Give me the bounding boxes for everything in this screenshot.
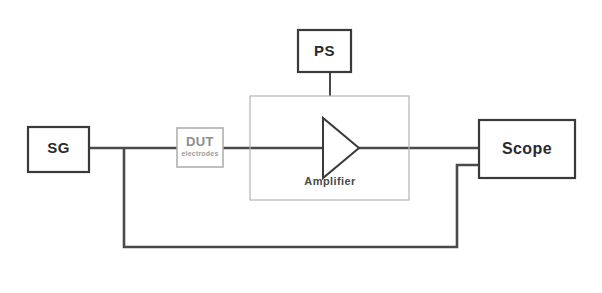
circuit-block-diagram: SG DUT electrodes PS Amplifier Scope (0, 0, 602, 293)
wire-group (88, 72, 479, 247)
diagram-graphics-layer (0, 0, 602, 293)
oscilloscope-box (479, 120, 575, 178)
power-supply-box (298, 30, 351, 72)
amplifier-triangle-icon (323, 118, 359, 178)
signal-generator-box (28, 127, 89, 172)
device-under-test-box (177, 128, 223, 167)
